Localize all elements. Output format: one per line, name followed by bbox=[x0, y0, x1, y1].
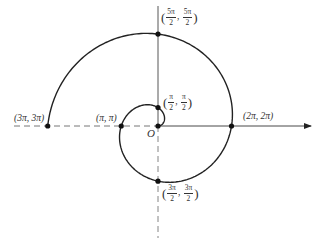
point-pi-over-2 bbox=[155, 105, 160, 110]
point-5pi-over-2 bbox=[155, 32, 160, 37]
spiral-diagram bbox=[0, 0, 320, 249]
label-pi-over-2: (π2, π2) bbox=[163, 93, 192, 111]
spiral-points bbox=[45, 32, 234, 184]
point-2pi bbox=[229, 123, 234, 128]
label-2pi: (2π, 2π) bbox=[243, 112, 273, 122]
point-pi bbox=[119, 123, 124, 128]
origin-label: O bbox=[147, 128, 155, 139]
point-3pi bbox=[45, 123, 50, 128]
label-3pi: (3π, 3π) bbox=[14, 114, 44, 124]
archimedean-spiral bbox=[48, 33, 233, 182]
origin-dot bbox=[155, 123, 160, 128]
label-pi: (π, π) bbox=[96, 114, 117, 124]
point-3pi-over-2 bbox=[155, 179, 160, 184]
label-5pi-over-2: (5π2, 5π2) bbox=[161, 8, 198, 26]
label-3pi-over-2: (3π2, 3π2) bbox=[162, 184, 199, 202]
